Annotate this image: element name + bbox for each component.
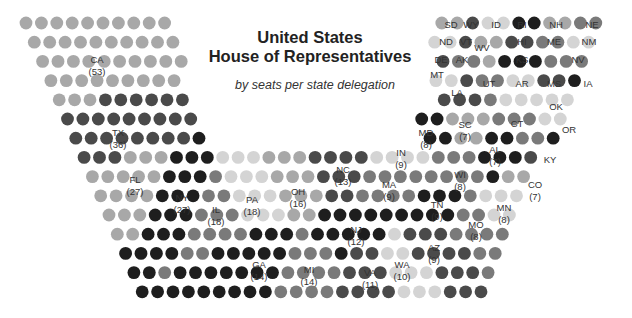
state-label-tx: TX xyxy=(112,127,125,138)
state-label-ok: OK xyxy=(549,101,563,112)
state-label-nc: NC xyxy=(336,164,350,175)
state-label-nd: ND xyxy=(439,36,453,47)
state-label-nm: NM xyxy=(582,36,597,47)
state-seat-count-in: (9) xyxy=(395,159,407,170)
state-label-ia: IA xyxy=(584,78,594,89)
state-label-pa: PA xyxy=(246,194,259,205)
state-label-wv: WV xyxy=(474,42,490,53)
state-seat-count-tn: (9) xyxy=(431,211,443,222)
state-label-sc: SC xyxy=(458,119,471,130)
chart-root: CA(53)TX(36)FL(27)NY(27)IL(18)PA(18)OH(1… xyxy=(0,0,632,318)
chart-title: United States House of Representatives xyxy=(206,28,414,66)
state-label-ne: NE xyxy=(585,19,598,30)
state-label-in: IN xyxy=(396,147,406,158)
state-seat-count-tx: (36) xyxy=(110,139,127,150)
state-seat-count-oh: (16) xyxy=(290,198,307,209)
state-label-id: ID xyxy=(491,19,501,30)
state-seat-count-nc: (13) xyxy=(335,176,352,187)
state-seat-count-mn: (8) xyxy=(498,214,510,225)
state-seat-count-nj: (12) xyxy=(348,236,365,247)
state-seat-count-mi: (14) xyxy=(301,276,318,287)
state-seat-count-co: (7) xyxy=(529,191,541,202)
state-label-ms: MS xyxy=(547,78,561,89)
state-seat-count-va: (11) xyxy=(362,279,378,290)
state-label-mt: MT xyxy=(430,69,444,80)
state-label-az: AZ xyxy=(428,242,440,253)
state-label-ca: CA xyxy=(90,54,104,65)
state-label-ri: RI xyxy=(517,19,527,30)
state-seat-count-ga: (14) xyxy=(251,271,268,282)
title-line-1: United States xyxy=(206,28,414,47)
state-label-mo: MO xyxy=(468,219,483,230)
state-label-ky: KY xyxy=(544,154,557,165)
chart-subtitle: by seats per state delegation xyxy=(210,78,420,92)
state-label-fl: FL xyxy=(129,174,140,185)
state-label-md: MD xyxy=(419,127,434,138)
state-label-mi: MI xyxy=(304,264,315,275)
state-seat-count-ma: (9) xyxy=(383,191,395,202)
state-seat-count-az: (9) xyxy=(428,254,440,265)
state-label-tn: TN xyxy=(431,199,444,210)
state-label-or: OR xyxy=(562,124,576,135)
state-label-ar: AR xyxy=(515,78,528,89)
state-label-ks: KS xyxy=(516,54,529,65)
state-label-hi: HI xyxy=(517,36,527,47)
state-label-co: CO xyxy=(528,179,542,190)
state-label-ut: UT xyxy=(483,78,496,89)
state-label-al: AL xyxy=(489,144,501,155)
state-label-vt: VT xyxy=(460,36,472,47)
state-label-sd: SD xyxy=(444,19,457,30)
state-seat-count-ny: (27) xyxy=(174,204,191,215)
state-seat-count-pa: (18) xyxy=(244,206,261,217)
state-label-nv: NV xyxy=(571,54,585,65)
state-seat-count-al: (7) xyxy=(489,156,501,167)
state-label-ga: GA xyxy=(252,259,266,270)
state-label-la: LA xyxy=(451,87,463,98)
state-label-wa: WA xyxy=(395,259,411,270)
state-label-wy: WY xyxy=(463,19,479,30)
state-label-wi: WI xyxy=(454,169,466,180)
state-label-ak: AK xyxy=(456,54,469,65)
state-label-il: IL xyxy=(212,204,220,215)
state-seat-count-il: (18) xyxy=(208,216,225,227)
state-seat-count-md: (8) xyxy=(420,139,432,150)
state-label-ct: CT xyxy=(511,118,524,129)
state-seat-count-mo: (8) xyxy=(470,231,482,242)
state-label-de: DE xyxy=(434,54,447,65)
state-seat-count-wi: (8) xyxy=(454,181,466,192)
state-label-va: VA xyxy=(364,267,377,278)
state-label-mn: MN xyxy=(497,202,512,213)
state-label-ma: MA xyxy=(382,179,397,190)
state-seat-count-fl: (27) xyxy=(127,186,144,197)
state-label-nh: NH xyxy=(549,19,563,30)
state-seat-count-sc: (7) xyxy=(459,131,471,142)
state-seat-count-ca: (53) xyxy=(89,66,106,77)
title-line-2: House of Representatives xyxy=(206,47,414,66)
state-seat-count-wa: (10) xyxy=(394,271,411,282)
state-label-nj: NJ xyxy=(350,224,362,235)
state-label-me: ME xyxy=(547,36,561,47)
state-label-ny: NY xyxy=(175,192,189,203)
state-label-oh: OH xyxy=(291,186,305,197)
